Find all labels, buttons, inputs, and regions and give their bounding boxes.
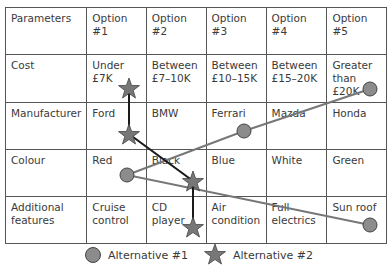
star-marker-icon — [203, 243, 227, 267]
parameter-cell: Colour — [6, 150, 87, 197]
option-cell: White — [266, 150, 327, 197]
header-cell: Parameters — [6, 8, 87, 55]
option-cell: Between £7–10K — [146, 55, 206, 103]
parameter-cell: Manufacturer — [6, 103, 87, 150]
parameter-cell: Cost — [6, 55, 87, 103]
option-cell: Blue — [206, 150, 266, 197]
header-cell: Option #3 — [206, 8, 266, 55]
option-cell: Full electrics — [266, 197, 327, 244]
option-cell: Ford — [87, 103, 146, 150]
option-cell: BMW — [146, 103, 206, 150]
parameter-cell: Additional features — [6, 197, 87, 244]
option-cell: Honda — [327, 103, 387, 150]
header-cell: Option #4 — [266, 8, 327, 55]
header-row: Parameters Option #1 Option #2 Option #3… — [6, 8, 387, 55]
option-cell: Under £7K — [87, 55, 146, 103]
header-cell: Option #5 — [327, 8, 387, 55]
legend: Alternative #1 Alternative #2 — [0, 240, 387, 270]
option-cell: Sun roof — [327, 197, 387, 244]
option-cell: Air condition — [206, 197, 266, 244]
option-cell: Black — [146, 150, 206, 197]
option-cell: Ferrari — [206, 103, 266, 150]
circle-marker-icon — [84, 246, 102, 264]
table-row-manufacturer: Manufacturer Ford BMW Ferrari Mazda Hond… — [6, 103, 387, 150]
table-row-features: Additional features Cruise control CD pl… — [6, 197, 387, 244]
option-cell: Greater than £20K — [327, 55, 387, 103]
legend-item-alternative-2: Alternative #2 — [203, 240, 313, 270]
table-row-cost: Cost Under £7K Between £7–10K Between £1… — [6, 55, 387, 103]
legend-label: Alternative #1 — [108, 249, 188, 262]
option-cell: Cruise control — [87, 197, 146, 244]
legend-label: Alternative #2 — [233, 249, 313, 262]
option-cell: Green — [327, 150, 387, 197]
option-cell: Mazda — [266, 103, 327, 150]
table-row-colour: Colour Red Black Blue White Green — [6, 150, 387, 197]
header-cell: Option #1 — [87, 8, 146, 55]
legend-item-alternative-1: Alternative #1 — [84, 240, 188, 270]
header-cell: Option #2 — [146, 8, 206, 55]
option-cell: Between £15–20K — [266, 55, 327, 103]
option-cell: CD player — [146, 197, 206, 244]
morphological-table: Parameters Option #1 Option #2 Option #3… — [5, 7, 387, 244]
option-cell: Red — [87, 150, 146, 197]
option-cell: Between £10–15K — [206, 55, 266, 103]
